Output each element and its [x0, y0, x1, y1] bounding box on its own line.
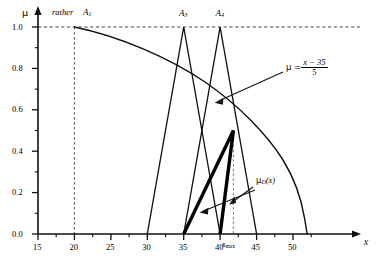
rather-label: rather: [52, 8, 73, 17]
x-tick-label-20: 20: [69, 243, 78, 252]
A1-subscript: 1: [89, 11, 92, 17]
x-axis-label: x: [364, 238, 368, 248]
x-max-label: xmax: [222, 241, 235, 250]
y-tick-label-0.6: 0.6: [12, 105, 23, 114]
x-axis-arrow: [352, 230, 361, 237]
y-axis-arrow: [34, 6, 41, 15]
y-axis-label: μ: [22, 8, 28, 18]
muD-leader-left: [204, 190, 256, 211]
chart-canvas: [0, 0, 377, 271]
x-tick-label-15: 15: [33, 243, 42, 252]
muD-label: μD(x): [256, 176, 275, 185]
series-A3-triangle: [147, 27, 220, 234]
mu-formula-denominator: 5: [301, 68, 327, 77]
mu-formula-lhs: μ =: [286, 62, 301, 72]
A4-label: A4: [216, 9, 225, 18]
y-tick-label-0.0: 0.0: [12, 230, 23, 239]
muD-arrowhead-left: [200, 208, 209, 215]
A4-subscript: 4: [221, 12, 224, 18]
A1-label: A1: [83, 8, 92, 17]
mu-formula-arrowhead: [215, 98, 224, 105]
y-tick-label-0.4: 0.4: [12, 147, 23, 156]
fuzzy-membership-chart: μ x 1.0 0.8 0.6 0.4 0.2 0.0 15 20 25 30 …: [0, 0, 377, 271]
y-tick-label-0.8: 0.8: [12, 64, 23, 73]
A3-label: A3: [179, 9, 188, 18]
x-tick-label-50: 50: [288, 243, 297, 252]
x-tick-label-25: 25: [106, 243, 115, 252]
mu-formula-label: μ =x − 355: [286, 58, 328, 76]
series-rather-A1-curve: [74, 27, 307, 234]
y-tick-label-1.0: 1.0: [12, 23, 23, 32]
x-tick-label-30: 30: [142, 243, 151, 252]
series-A4-triangle: [184, 27, 257, 234]
muD-argument: (x): [266, 175, 275, 185]
A3-subscript: 3: [185, 12, 188, 18]
x-tick-label-45: 45: [252, 243, 261, 252]
x-tick-label-35: 35: [179, 243, 188, 252]
series-muD-envelope: [184, 131, 234, 235]
x-max-subscript: max: [226, 243, 235, 249]
mu-formula-fraction: x − 355: [301, 58, 327, 76]
y-tick-label-0.2: 0.2: [12, 188, 23, 197]
